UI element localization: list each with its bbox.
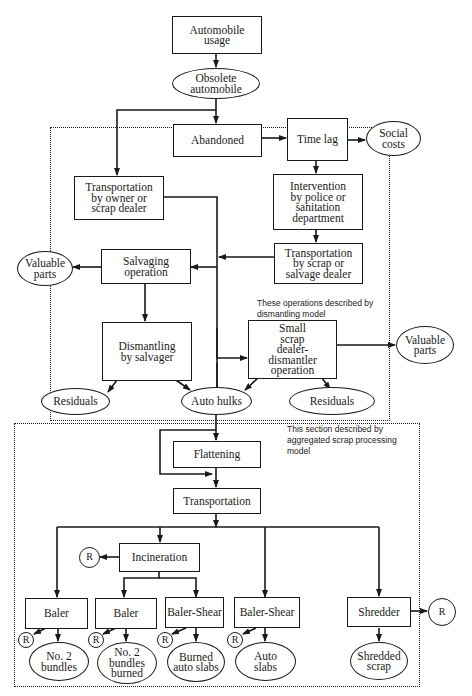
time-lag-box: Time lag: [287, 118, 348, 161]
social-costs-ellipse: Social costs: [366, 121, 421, 156]
obsolete-automobile-ellipse: Obsolete automobile: [172, 68, 260, 99]
intervention-box: Intervention by police or sanitation dep…: [273, 174, 363, 230]
salvaging-operation-box: Salvaging operation: [101, 249, 191, 284]
baler-shear-2-box: Baler-Shear: [234, 597, 300, 628]
burned-auto-slabs-ellipse: Burned auto slabs: [167, 642, 225, 682]
residue-marker-incineration: R: [79, 547, 100, 568]
baler-1-box: Baler: [25, 598, 88, 629]
residuals-right-ellipse: Residuals: [289, 387, 375, 415]
shredded-scrap-ellipse: Shredded scrap: [350, 642, 408, 680]
incineration-box: Incineration: [119, 543, 200, 572]
abandoned-box: Abandoned: [173, 124, 262, 157]
baler-shear-1-box: Baler-Shear: [165, 597, 224, 628]
transportation-scrap-box: Transportation by scrap or salvage deale…: [274, 243, 363, 284]
transportation-owner-box: Transportation by owner or scrap dealer: [74, 176, 164, 220]
scrap-processing-note: This section described by aggregated scr…: [287, 424, 412, 457]
residue-marker-baler-shear-1: R: [157, 632, 173, 648]
valuable-parts-left-ellipse: Valuable parts: [17, 251, 73, 286]
flattening-box: Flattening: [173, 441, 261, 468]
shredder-box: Shredder: [347, 597, 411, 627]
valuable-parts-right-ellipse: Valuable parts: [396, 326, 454, 364]
no2-bundles-ellipse: No. 2 bundles: [29, 642, 89, 681]
baler-2-box: Baler: [95, 598, 157, 629]
residue-marker-shredder: R: [428, 598, 456, 626]
residue-marker-baler-shear-2: R: [227, 632, 243, 648]
automobile-usage-box: Automobile usage: [172, 16, 262, 54]
dismantling-box: Dismantling by salvager: [102, 322, 192, 381]
residuals-left-ellipse: Residuals: [41, 388, 110, 415]
auto-hulks-ellipse: Auto hulks: [181, 387, 252, 415]
no2-bundles-burned-ellipse: No. 2 bundles burned: [97, 642, 157, 684]
residue-marker-baler-2: R: [88, 632, 104, 648]
small-scrap-dealer-box: Small scrap dealer-dismantler operation: [248, 320, 337, 379]
dismantling-model-note: These operations described by dismantlin…: [257, 298, 387, 320]
auto-slabs-ellipse: Auto slabs: [235, 642, 296, 681]
transportation-box: Transportation: [173, 488, 261, 514]
residue-marker-baler-1: R: [18, 632, 34, 648]
